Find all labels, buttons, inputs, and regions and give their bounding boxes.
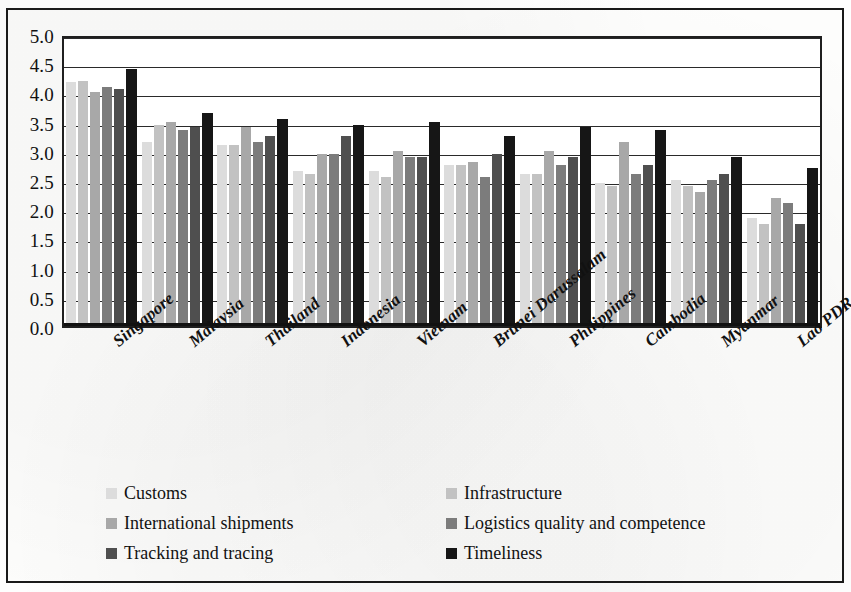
x-axis-tick-label: Lao PDR: [793, 336, 806, 351]
bar-chart: 0.00.51.01.52.02.53.03.54.04.55.0 Singap…: [6, 8, 844, 583]
legend-label: Customs: [124, 484, 187, 502]
legend-label: Logistics quality and competence: [464, 514, 705, 532]
bar: [807, 168, 818, 326]
y-axis-tick-label: 1.0: [30, 260, 54, 279]
bar: [241, 127, 251, 326]
bar: [429, 122, 440, 326]
bar: [655, 130, 666, 326]
legend-swatch-icon: [106, 518, 117, 529]
y-axis-tick-label: 3.5: [30, 114, 54, 133]
x-axis-tick-label: Cambodia: [641, 336, 654, 351]
bar: [468, 162, 478, 326]
legend-label: Tracking and tracing: [124, 544, 273, 562]
bar: [277, 119, 288, 326]
bar-group: [140, 38, 216, 326]
y-axis-tick-label: 0.0: [30, 319, 54, 338]
bar: [317, 154, 327, 326]
bar-group: [442, 38, 518, 326]
bar: [480, 177, 490, 326]
bar: [568, 157, 578, 326]
legend-label: Timeliness: [464, 544, 542, 562]
bar: [783, 203, 793, 326]
legend-item[interactable]: Tracking and tracing: [106, 544, 446, 562]
bar: [217, 145, 227, 326]
legend-item[interactable]: International shipments: [106, 514, 446, 532]
bar: [114, 89, 124, 326]
bar-group: [291, 38, 367, 326]
y-axis-tick-label: 1.5: [30, 231, 54, 250]
y-axis-tick-label: 5.0: [30, 27, 54, 46]
x-axis-tick-label: Vietnam: [413, 336, 426, 351]
y-axis-tick-label: 2.0: [30, 202, 54, 221]
bar: [102, 87, 112, 326]
legend-swatch-icon: [446, 488, 457, 499]
bar: [492, 154, 502, 326]
x-axis-tick-label: Singapore: [109, 336, 122, 351]
bar: [504, 136, 515, 326]
bar: [353, 125, 364, 326]
x-axis-tick-label: Myanmar: [717, 336, 730, 351]
bar: [417, 157, 427, 326]
y-axis-tick-label: 3.0: [30, 143, 54, 162]
legend-swatch-icon: [106, 488, 117, 499]
bar-group: [64, 38, 140, 326]
bar: [190, 127, 200, 326]
legend-swatch-icon: [446, 518, 457, 529]
bar: [90, 92, 100, 326]
x-axis-tick-label: Brunei Darussalam: [489, 336, 502, 351]
chart-legend: CustomsInfrastructureInternational shipm…: [106, 478, 766, 568]
bar: [253, 142, 263, 326]
bar: [643, 165, 653, 326]
bar: [178, 130, 188, 326]
legend-item[interactable]: Timeliness: [446, 544, 766, 562]
x-axis-tick-label: Thailand: [261, 336, 274, 351]
bar-group: [366, 38, 442, 326]
bar: [580, 127, 591, 326]
x-axis-category-labels: SingaporeMalaysiaThailandIndonesiaVietna…: [62, 330, 822, 425]
legend-label: Infrastructure: [464, 484, 562, 502]
legend-label: International shipments: [124, 514, 293, 532]
y-axis: 0.00.51.01.52.02.53.03.54.04.55.0: [6, 36, 58, 328]
bar: [66, 82, 76, 326]
y-axis-tick-label: 0.5: [30, 289, 54, 308]
legend-item[interactable]: Customs: [106, 484, 446, 502]
legend-item[interactable]: Infrastructure: [446, 484, 766, 502]
x-axis-tick-label: Philippines: [565, 336, 578, 351]
bar: [265, 136, 275, 326]
bar: [341, 136, 351, 326]
legend-item[interactable]: Logistics quality and competence: [446, 514, 766, 532]
plot-inner: [64, 38, 820, 326]
legend-swatch-icon: [106, 548, 117, 559]
bar-group: [744, 38, 820, 326]
bar-groups: [64, 38, 820, 326]
bar-group: [215, 38, 291, 326]
bar-group: [669, 38, 745, 326]
y-axis-tick-label: 2.5: [30, 173, 54, 192]
bar: [795, 224, 805, 326]
bar: [202, 113, 213, 326]
bar: [329, 154, 339, 326]
plot-area: [62, 36, 822, 328]
legend-swatch-icon: [446, 548, 457, 559]
bar: [731, 157, 742, 326]
bar: [405, 157, 415, 326]
bar: [78, 81, 88, 326]
bar: [142, 142, 152, 326]
y-axis-tick-label: 4.0: [30, 85, 54, 104]
x-axis-tick-label: Indonesia: [337, 336, 350, 351]
bar: [126, 69, 137, 326]
bar-group: [593, 38, 669, 326]
x-axis-tick-label: Malaysia: [185, 336, 198, 351]
bar: [719, 174, 729, 326]
y-axis-tick-label: 4.5: [30, 56, 54, 75]
